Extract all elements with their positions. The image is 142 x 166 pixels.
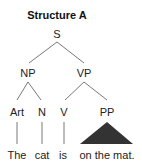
- edge-np-n: [28, 82, 41, 100]
- pp-triangle: [80, 122, 133, 144]
- diagram-title: Structure A: [27, 9, 87, 21]
- node-pp: PP: [100, 106, 115, 118]
- node-s: S: [53, 28, 60, 40]
- edge-s-vp: [57, 42, 84, 63]
- leaf-on-the-mat: on the mat.: [79, 149, 134, 161]
- edge-vp-v: [65, 82, 84, 100]
- syntax-tree-diagram: Structure A S NP VP Art N V PP The cat i…: [0, 0, 142, 166]
- leaf-is: is: [59, 149, 67, 161]
- node-vp: VP: [77, 67, 92, 79]
- leaf-cat: cat: [35, 149, 50, 161]
- leaf-the: The: [8, 149, 27, 161]
- edge-vp-pp: [84, 82, 107, 100]
- edge-np-art: [17, 82, 28, 100]
- node-n: N: [38, 106, 46, 118]
- edge-s-np: [29, 42, 57, 63]
- node-art: Art: [10, 106, 24, 118]
- node-v: V: [60, 106, 68, 118]
- node-np: NP: [20, 67, 35, 79]
